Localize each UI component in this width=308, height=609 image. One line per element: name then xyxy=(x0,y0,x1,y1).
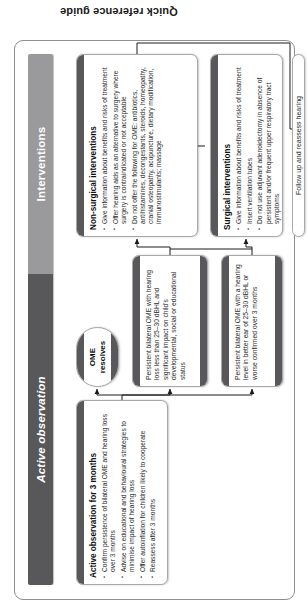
list-item: Do not use adjuvant adenoidectomy in abs… xyxy=(256,61,280,230)
screenshot-canvas: Active observation Interventions Quick r… xyxy=(0,0,308,609)
list-item: Advise on educational and behavioural st… xyxy=(120,407,136,578)
card-cap xyxy=(77,55,84,236)
list-item: Give information about benefits and risk… xyxy=(101,61,109,230)
card-cap-bottom xyxy=(200,256,207,386)
banner-active-observation: Active observation xyxy=(28,274,53,585)
node-active-observation-title: Active observation for 3 months xyxy=(89,407,98,578)
node-persistent-ome-significant-impact-text: Persistent bilateral OME with hearing lo… xyxy=(145,262,187,380)
phase-banner: Active observation Interventions xyxy=(28,54,53,585)
node-persistent-ome-hearing-level[interactable]: Persistent bilateral OME with a hearing … xyxy=(221,255,283,387)
list-item: Insert ventilation tubes xyxy=(246,61,254,230)
node-ome-resolves-label: OME resolves xyxy=(88,332,107,382)
list-item: Offer autoinflation for children likely … xyxy=(139,407,147,578)
card-cap xyxy=(222,256,229,386)
node-follow-up[interactable]: Follow up and reassess hearing xyxy=(292,54,305,237)
card-cap xyxy=(77,401,84,584)
list-item: Confirm persistence of bilateral OME and… xyxy=(101,407,117,578)
list-item: Reassess after 3 months xyxy=(149,407,157,578)
node-ome-resolves[interactable]: OME resolves xyxy=(76,327,119,387)
quick-reference-guide-label: Quick reference guide xyxy=(60,6,178,18)
node-surgical-interventions[interactable]: Surgical interventions Give information … xyxy=(210,54,283,237)
card-cap-bottom xyxy=(111,328,118,386)
list-item: Do not offer the following for OME: anti… xyxy=(131,61,163,230)
banner-interventions: Interventions xyxy=(28,54,53,274)
list-item: Give information about benefits and risk… xyxy=(235,61,243,230)
card-cap-bottom xyxy=(275,256,282,386)
node-non-surgical-interventions[interactable]: Non-surgical interventions Give informat… xyxy=(76,54,198,237)
node-surgical-interventions-title: Surgical interventions xyxy=(223,61,232,230)
node-follow-up-label: Follow up and reassess hearing xyxy=(295,96,302,195)
card-cap xyxy=(133,256,140,386)
list-item: Offer hearing aids as an alternative to … xyxy=(112,61,128,230)
node-persistent-ome-significant-impact[interactable]: Persistent bilateral OME with hearing lo… xyxy=(132,255,208,387)
card-cap xyxy=(211,55,218,236)
node-active-observation[interactable]: Active observation for 3 months Confirm … xyxy=(76,400,168,585)
node-non-surgical-interventions-bullets: Give information about benefits and risk… xyxy=(101,61,162,230)
node-non-surgical-interventions-title: Non-surgical interventions xyxy=(89,61,98,230)
node-surgical-interventions-bullets: Give information about benefits and risk… xyxy=(235,61,280,230)
quick-reference-guide-page: Active observation Interventions Quick r… xyxy=(0,0,308,609)
node-persistent-ome-hearing-level-text: Persistent bilateral OME with a hearing … xyxy=(234,262,259,380)
node-active-observation-bullets: Confirm persistence of bilateral OME and… xyxy=(101,407,157,578)
